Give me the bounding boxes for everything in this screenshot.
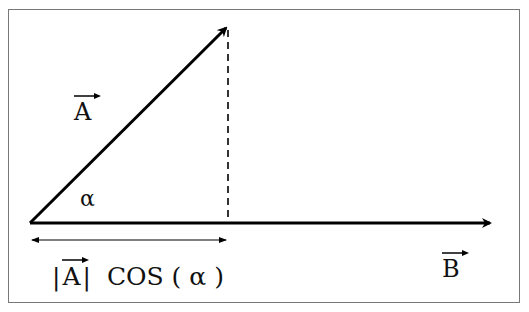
abs-close: | (83, 262, 91, 291)
vector-b-label: B (442, 255, 460, 283)
cos-argument: α (189, 262, 206, 291)
vector-a-label: A (74, 98, 91, 126)
angle-label: α (80, 186, 95, 211)
cos-function: COS (107, 262, 164, 291)
paren-open: ( (172, 262, 182, 291)
abs-open: | (52, 262, 60, 291)
vector-a-arrow (30, 28, 226, 223)
projection-label: |A| COS ( α ) (52, 262, 224, 291)
paren-close: ) (214, 262, 224, 291)
vector-a-letter: A (74, 98, 91, 126)
vector-b-letter: B (442, 255, 460, 283)
projection-vector-letter: A (62, 262, 80, 291)
